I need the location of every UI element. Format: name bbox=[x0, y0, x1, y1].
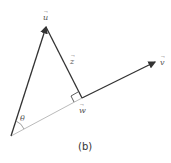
vector-projection-diagram: u → z → v → w → θ (b) bbox=[0, 0, 171, 163]
label-z: z bbox=[69, 57, 75, 66]
label-v: v bbox=[160, 58, 165, 67]
label-w: w bbox=[79, 106, 86, 115]
vector-z bbox=[46, 27, 82, 98]
arrow-v-icon: → bbox=[160, 53, 166, 59]
arrow-w-icon: → bbox=[79, 101, 85, 107]
label-theta: θ bbox=[20, 114, 25, 123]
label-u: u bbox=[43, 13, 48, 22]
arrow-z-icon: → bbox=[70, 52, 76, 58]
vector-v bbox=[82, 62, 155, 98]
arrow-u-icon: → bbox=[43, 8, 49, 14]
figure-caption: (b) bbox=[78, 141, 92, 152]
